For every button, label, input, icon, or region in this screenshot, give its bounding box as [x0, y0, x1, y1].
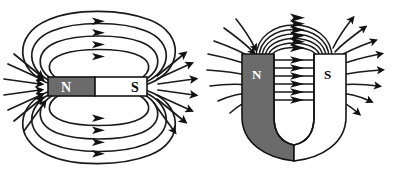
field-arrow-bottom-4 [92, 115, 105, 122]
horseshoe-radial-n-2 [224, 28, 253, 52]
radial-arrows-north [4, 54, 44, 131]
bar-magnet-diagram: N S [0, 0, 198, 175]
field-line-top-3 [40, 36, 158, 81]
field-line-top-4 [49, 50, 148, 81]
field-arrow-top-3 [92, 41, 105, 48]
horseshoe-north-label: N [252, 67, 262, 82]
horseshoe-radial-s-1 [333, 19, 352, 48]
horseshoe-radial-n-1 [236, 19, 255, 48]
bar-magnet-north-label: N [61, 80, 71, 95]
horseshoe-field-lines [207, 14, 381, 113]
horseshoe-radial-s-2 [335, 28, 364, 52]
horseshoe-magnet-svg: N S [198, 0, 396, 175]
radial-arrow-s-4 [158, 90, 194, 95]
horseshoe-north-arm [242, 54, 294, 161]
magnetic-field-figure: N S [0, 0, 396, 175]
bar-magnet-body: N S [48, 77, 147, 96]
radial-arrows-south [154, 54, 194, 131]
radial-arrow-n-6 [14, 99, 41, 121]
radial-arrow-s-6 [157, 99, 184, 121]
bar-magnet-south-pole [95, 77, 147, 96]
field-arrow-top-4 [92, 53, 105, 60]
radial-arrow-n-3 [4, 79, 40, 84]
field-line-bottom-4 [49, 95, 148, 126]
horseshoe-south-label: S [324, 67, 331, 82]
radial-arrow-n-4 [4, 90, 40, 95]
bar-magnet-svg: N S [0, 0, 198, 175]
bar-magnet-south-label: S [131, 80, 139, 95]
radial-arrow-s-3 [158, 79, 194, 84]
horseshoe-south-arm [294, 54, 346, 161]
horseshoe-magnet-diagram: N S [198, 0, 396, 175]
field-arrow-bottom-3 [92, 127, 105, 134]
bar-magnet-north-pole [48, 77, 95, 96]
